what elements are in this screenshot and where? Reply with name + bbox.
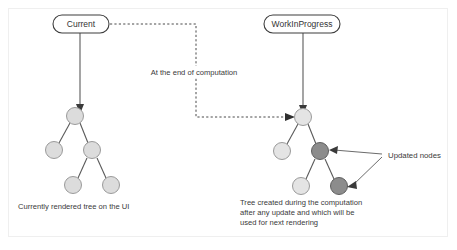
tree-node — [67, 108, 84, 125]
updated-nodes-label: Updated nodes — [388, 151, 441, 160]
wip-node-label: WorkInProgress — [272, 19, 333, 29]
left-tree-caption: Currently rendered tree on the UI — [18, 202, 129, 211]
tree-node — [84, 142, 101, 159]
wip-node-pill[interactable]: WorkInProgress — [264, 15, 340, 33]
current-node-pill[interactable]: Current — [53, 15, 109, 33]
right-tree-caption-line2: after any update and which will be — [240, 208, 354, 217]
tree-node — [65, 177, 82, 194]
tree-node — [103, 177, 120, 194]
tree-node — [274, 143, 291, 160]
tree-node-updated — [331, 178, 348, 195]
wip-to-root-connector — [299, 33, 307, 115]
current-to-root-connector — [76, 33, 84, 114]
tree-node — [293, 178, 310, 195]
right-tree-caption-line1: Tree created during the computation — [240, 198, 362, 207]
left-tree-nodes — [46, 108, 120, 194]
tree-node — [46, 142, 63, 159]
current-node-label: Current — [67, 19, 96, 29]
transition-path-label: At the end of computation — [151, 68, 238, 77]
right-tree-caption-line3: used for next rendering — [240, 218, 318, 227]
tree-node-updated — [312, 143, 329, 160]
tree-node — [295, 109, 312, 126]
diagram-canvas: At the end of computation — [0, 0, 457, 250]
diagram-graphics: At the end of computation — [0, 0, 457, 250]
